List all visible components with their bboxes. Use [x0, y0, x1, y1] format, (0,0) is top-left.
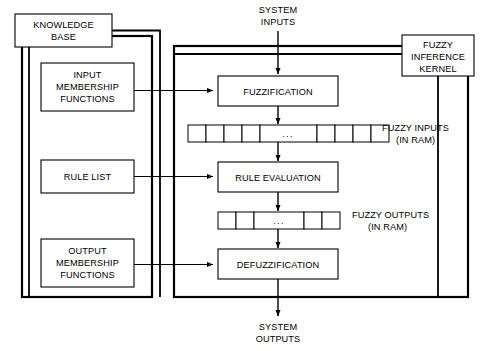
fuzzy-inputs-label-line2: (IN RAM): [396, 135, 435, 145]
knowledge-base-title-line2: BASE: [51, 32, 76, 42]
fuzzy-output-cell: [236, 212, 254, 229]
fuzzy-input-cell: [335, 125, 353, 142]
fuzzy-inputs-ellipsis: ...: [282, 129, 294, 139]
output-membership-functions-label-1: OUTPUT: [68, 246, 107, 256]
system-outputs-label-line2: OUTPUTS: [256, 334, 301, 344]
fuzzy-output-cell: [304, 212, 322, 229]
output-membership-functions-label-3: FUNCTIONS: [60, 270, 115, 280]
fuzzy-outputs-label-line1: FUZZY OUTPUTS: [352, 210, 429, 220]
kernel-badge-label-3: KERNEL: [419, 64, 456, 74]
rule-evaluation-label: RULE EVALUATION: [235, 173, 320, 183]
fuzzy-input-cell: [242, 125, 260, 142]
fuzzy-input-cell: [353, 125, 371, 142]
fuzzy-outputs-label-line2: (IN RAM): [368, 222, 407, 232]
knowledge-base-title-line1: KNOWLEDGE: [33, 20, 94, 30]
fuzzy-input-cell: [224, 125, 242, 142]
system-inputs-label-line1: SYSTEM: [259, 5, 297, 15]
input-membership-functions-label-2: MEMBERSHIP: [56, 82, 119, 92]
kernel-badge-label-2: INFERENCE: [411, 52, 465, 62]
defuzzification-label: DEFUZZIFICATION: [237, 260, 319, 270]
fuzzy-outputs-ellipsis: ...: [273, 216, 285, 226]
input-membership-functions-label-3: FUNCTIONS: [60, 94, 115, 104]
fuzzy-output-cell: [218, 212, 236, 229]
kernel-badge-label-1: FUZZY: [423, 40, 453, 50]
fuzzy-inputs-label-line1: FUZZY INPUTS: [382, 123, 449, 133]
fuzzification-label: FUZZIFICATION: [243, 87, 313, 97]
input-membership-functions-label-1: INPUT: [73, 70, 101, 80]
fuzzy-inputs-array: ...: [188, 125, 389, 142]
fuzzy-inference-diagram: KNOWLEDGE BASE INPUT MEMBERSHIP FUNCTION…: [0, 0, 491, 351]
fuzzy-input-cell: [188, 125, 206, 142]
system-inputs-label-line2: INPUTS: [261, 17, 295, 27]
output-membership-functions-label-2: MEMBERSHIP: [56, 258, 119, 268]
fuzzy-input-cell: [317, 125, 335, 142]
fuzzy-output-cell: [322, 212, 340, 229]
rule-list-label: RULE LIST: [64, 172, 112, 182]
fuzzy-outputs-array: ...: [218, 212, 340, 229]
diagram-canvas: KNOWLEDGE BASE INPUT MEMBERSHIP FUNCTION…: [0, 0, 491, 351]
fuzzy-input-cell: [206, 125, 224, 142]
system-outputs-label-line1: SYSTEM: [259, 322, 297, 332]
